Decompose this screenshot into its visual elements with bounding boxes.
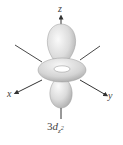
orbital-caption: 3dz2 [47,121,64,135]
torus-ring [38,58,86,82]
y-axis-back [80,46,100,60]
caption-superscript: 2 [61,125,64,131]
y-axis-label: y [108,91,112,101]
x-axis-front [16,80,42,93]
x-axis-label: x [7,89,11,99]
z-axis-label: z [58,4,62,14]
y-axis-front [80,80,106,95]
x-axis-back [15,45,42,62]
